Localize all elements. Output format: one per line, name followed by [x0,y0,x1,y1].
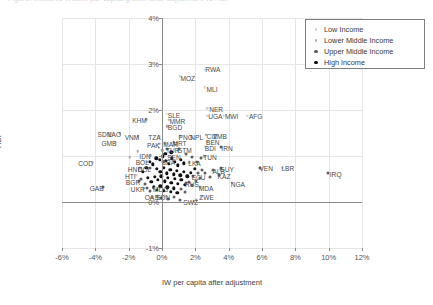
data-point [169,181,172,184]
data-point [182,170,185,173]
tick-label-x-3: 0% [157,253,168,262]
tick-x-7 [295,248,296,251]
point-label-tun: TUN [203,153,217,160]
point-label-lbr: LBR [281,165,294,172]
data-point-mli [203,86,206,89]
point-label-guy: GUY [220,165,234,172]
tick-y-2 [159,156,162,157]
x-axis-line [62,202,362,203]
point-label-mli: MLI [207,85,218,92]
data-point [169,168,172,171]
tick-y-3 [159,110,162,111]
point-label-bgd: BGD [168,124,182,131]
tick-label-y-3: 2% [140,106,159,115]
legend-label-low: Low Income [324,25,363,34]
point-label-ner: NER [209,106,223,113]
point-label-rwa: RWA [205,65,220,72]
data-point [173,177,176,180]
data-point [180,188,183,191]
point-label-lao: LAO [108,131,121,138]
data-point [182,162,185,165]
legend-label-uppermid: Upper Middle Income [324,47,393,56]
legend-item-uppermid[interactable]: Upper Middle Income [311,46,419,57]
data-point [179,178,182,181]
data-point [175,169,178,172]
legend-marker-icon-uppermid [311,50,321,53]
clipped-figure-title: Figure: Inclusive Wealth per capita grow… [0,0,433,7]
point-label-mwi: MWI [225,113,239,120]
point-label-gmb: GMB [101,140,116,147]
gridline-y-0 [62,248,362,249]
tick-label-y-0: -1% [140,244,159,253]
tick-label-x-8: 10% [321,253,336,262]
y-axis-line [162,18,163,248]
data-point [149,180,152,183]
point-label-rus: RUS [185,180,199,187]
point-label-pak: PAK [147,141,160,148]
tick-label-x-9: 12% [354,253,369,262]
y-axis-title: HDI [0,135,3,148]
gridline-x-5 [229,18,230,248]
tick-x-8 [329,248,330,251]
point-label-zwe: ZWE [199,193,214,200]
data-point [172,186,175,189]
data-point [191,155,194,158]
gridline-x-7 [295,18,296,248]
point-label-lka: LKA [188,160,200,167]
point-label-uga: UGA [208,113,222,120]
point-label-mda: MDA [199,185,214,192]
data-point [176,163,179,166]
tick-x-2 [129,248,130,251]
tick-x-6 [262,248,263,251]
tick-y-5 [159,18,162,19]
tick-label-x-4: 2% [190,253,201,262]
data-point [146,187,149,190]
data-point [184,190,187,193]
data-point [156,178,159,181]
point-label-khm: KHM [132,117,147,124]
legend-label-lowermid: Lower Middle Income [324,36,393,45]
data-point [149,189,152,192]
point-label-tza: TZA [148,134,160,141]
gridline-x-0 [62,18,63,248]
legend-item-lowermid[interactable]: Lower Middle Income [311,35,419,46]
legend-item-low[interactable]: Low Income [311,24,419,35]
tick-label-x-5: 4% [223,253,234,262]
data-point [146,176,149,179]
point-label-cod: COD [78,160,93,167]
point-label-bdi: BDI [205,144,216,151]
data-point [178,198,181,201]
tick-label-x-1: -4% [89,253,102,262]
tick-y-4 [159,64,162,65]
point-label-col: COL [138,165,152,172]
data-point [200,168,203,171]
data-point [179,174,182,177]
point-label-irq: IRQ [330,171,342,178]
point-label-ukr: UKR [131,186,145,193]
legend-marker-icon-low [311,28,321,31]
legend-marker-icon-lowermid [311,39,321,42]
tick-x-5 [229,248,230,251]
tick-x-0 [62,248,63,251]
tick-label-x-0: -6% [55,253,68,262]
tick-label-y-4: 3% [140,60,159,69]
data-point [172,173,175,176]
tick-label-x-6: 6% [257,253,268,262]
legend-item-high[interactable]: High Income [311,57,419,68]
legend-label-high: High Income [324,58,365,67]
data-point [208,175,211,178]
tick-label-y-1: 0% [140,198,159,207]
data-point [128,156,131,159]
point-label-moz: MOZ [181,74,196,81]
point-label-gab: GAB [90,185,104,192]
point-label-mdg: MDG [153,186,168,193]
data-point [172,196,175,199]
data-point [163,180,166,183]
tick-x-9 [362,248,363,251]
data-point [166,176,169,179]
point-label-irn: IRN [221,144,232,151]
data-point [165,172,168,175]
gridline-x-1 [95,18,96,248]
clipped-title-text: Figure: Inclusive Wealth per capita grow… [8,0,228,3]
point-label-bra: BRA [162,159,176,166]
